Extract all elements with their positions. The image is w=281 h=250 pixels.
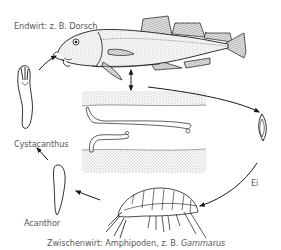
intestine-section-with-adult-worms bbox=[82, 91, 206, 173]
label-cystacanthus: Cystacanthus bbox=[14, 139, 68, 149]
arrow-egg-to-amphipod bbox=[200, 163, 257, 206]
cystacanthus-larva-illustration bbox=[18, 66, 33, 129]
label-intermediate-host-prefix: Zwischenwirt: Amphipoden, z. B. bbox=[47, 238, 181, 248]
amphipod-gammarus-illustration bbox=[106, 188, 206, 238]
acanthor-larva-illustration bbox=[53, 165, 65, 215]
label-acanthor: Acanthor bbox=[24, 218, 60, 228]
label-egg: Ei bbox=[251, 178, 258, 188]
egg-illustration bbox=[259, 114, 267, 141]
label-intermediate-host: Zwischenwirt: Amphipoden, z. B. Gammarus bbox=[47, 238, 225, 248]
label-intermediate-host-genus: Gammarus bbox=[181, 238, 225, 248]
arrow-cystacanthus-to-cod bbox=[39, 56, 56, 70]
anal-fin-2 bbox=[184, 58, 210, 68]
arrow-acanthor-to-cystacanthus bbox=[37, 148, 48, 160]
arrow-amphipod-to-acanthor bbox=[76, 191, 100, 200]
life-cycle-diagram bbox=[0, 0, 281, 250]
label-final-host: Endwirt: z. B. Dorsch bbox=[14, 21, 97, 31]
dorsal-fin-2 bbox=[172, 23, 205, 37]
